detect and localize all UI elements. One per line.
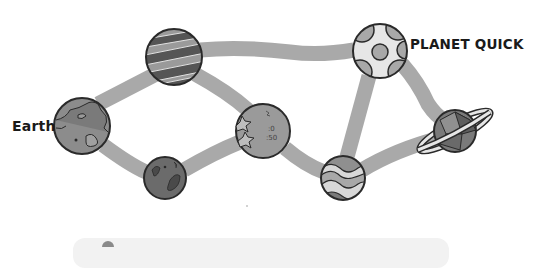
path-dark-stars[interactable] xyxy=(184,142,240,170)
path-striped-stars[interactable] xyxy=(195,74,248,110)
label-earth: Earth xyxy=(12,118,56,134)
path-earth-dark[interactable] xyxy=(103,145,146,172)
label-planet-quick: PLANET QUICK xyxy=(410,36,524,52)
svg-text::0: :0 xyxy=(268,125,275,133)
planet-stars[interactable]: :0 :50 xyxy=(236,104,290,158)
planet-earth[interactable] xyxy=(54,98,110,154)
path-earth-striped[interactable] xyxy=(98,74,156,104)
panel-handle[interactable] xyxy=(102,241,114,247)
planet-dark-spotted[interactable] xyxy=(144,157,186,199)
speck xyxy=(246,205,248,207)
bottom-panel xyxy=(73,238,449,268)
path-quick-ringed[interactable] xyxy=(402,64,444,120)
svg-text::50: :50 xyxy=(266,134,277,142)
path-stars-swirl[interactable] xyxy=(285,148,324,172)
path-swirl-quick[interactable] xyxy=(347,76,369,157)
path-striped-quick[interactable] xyxy=(200,48,354,53)
